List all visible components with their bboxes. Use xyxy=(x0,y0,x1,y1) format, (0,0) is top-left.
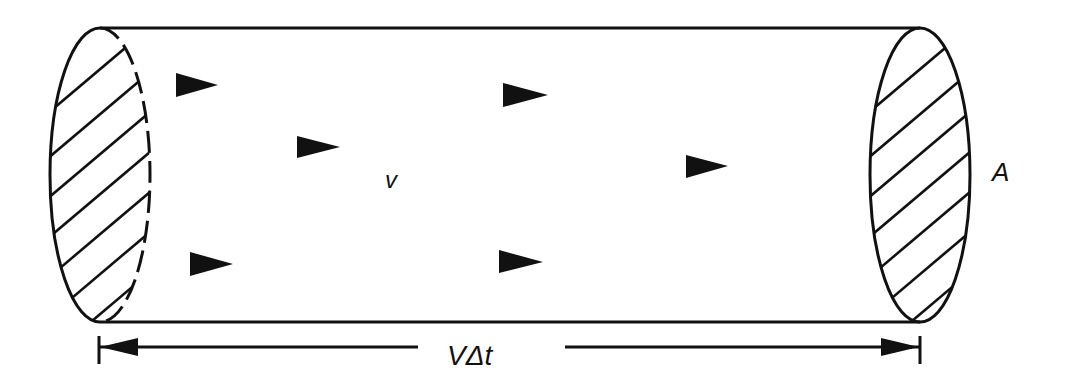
right-cross-section xyxy=(860,10,990,365)
particle-arrow-icon xyxy=(503,83,548,107)
left-cross-section xyxy=(40,10,170,365)
particle-arrow-icon xyxy=(499,250,543,273)
cylinder-diagram xyxy=(0,0,1066,390)
area-label: A xyxy=(992,157,1009,188)
particle-arrow-icon xyxy=(686,155,728,178)
velocity-label: v xyxy=(385,166,397,194)
particle-arrow-icon xyxy=(297,136,340,158)
cylinder-body xyxy=(100,28,920,322)
particles xyxy=(176,73,728,276)
particle-arrow-icon xyxy=(190,252,233,276)
length-label: VΔt xyxy=(447,340,567,372)
particle-arrow-icon xyxy=(176,73,218,97)
